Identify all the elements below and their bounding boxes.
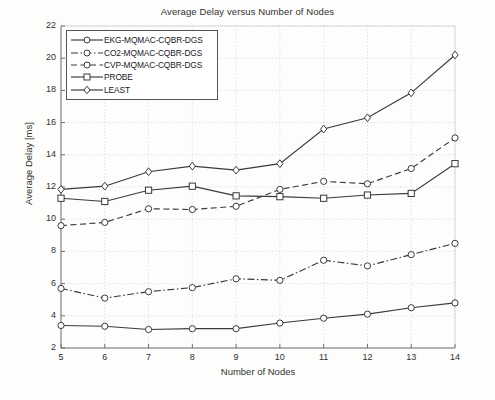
series-ekg-mqmac-cqbr-dgs <box>58 300 458 333</box>
legend-label-least: LEAST <box>104 85 130 95</box>
data-point-marker <box>102 182 108 190</box>
x-tick-label: 13 <box>399 352 423 362</box>
legend-label-co2: CO2-MQMAC-CQBR-DGS <box>104 48 202 58</box>
data-point-marker <box>321 195 327 201</box>
data-point-marker <box>408 165 414 171</box>
legend-item: LEAST <box>70 84 213 96</box>
data-point-marker <box>364 311 370 317</box>
legend-swatch-cvp <box>70 59 104 71</box>
legend-swatch-probe <box>70 71 104 83</box>
data-point-marker <box>277 160 283 168</box>
legend-swatch-ekg <box>70 34 104 46</box>
y-tick-label: 20 <box>30 52 56 62</box>
x-tick-label: 8 <box>180 352 204 362</box>
y-tick-label: 6 <box>30 278 56 288</box>
series-co2-mqmac-cqbr-dgs <box>58 240 458 301</box>
x-tick-label: 11 <box>312 352 336 362</box>
data-point-marker <box>145 168 151 176</box>
data-point-marker <box>189 162 195 170</box>
y-tick-label: 2 <box>30 342 56 352</box>
data-point-marker <box>277 320 283 326</box>
data-point-marker <box>233 166 239 174</box>
data-point-marker <box>452 300 458 306</box>
data-point-marker <box>321 315 327 321</box>
y-tick-label: 22 <box>30 20 56 30</box>
data-point-marker <box>84 74 90 80</box>
data-point-marker <box>84 86 90 94</box>
data-point-marker <box>277 194 283 200</box>
data-point-marker <box>233 203 239 209</box>
x-tick-label: 9 <box>224 352 248 362</box>
legend-item: CVP-MQMAC-CQBR-DGS <box>70 59 213 71</box>
data-point-marker <box>84 50 90 56</box>
data-point-marker <box>321 125 327 133</box>
x-tick-label: 7 <box>137 352 161 362</box>
data-point-marker <box>145 289 151 295</box>
chart-figure: Average Delay versus Number of Nodes Ave… <box>0 0 495 400</box>
legend-item: CO2-MQMAC-CQBR-DGS <box>70 46 213 58</box>
data-point-marker <box>452 51 458 59</box>
data-point-marker <box>189 285 195 291</box>
legend-swatch-least <box>70 84 104 96</box>
chart-legend: EKG-MQMAC-CQBR-DGS CO2-MQMAC-CQBR-DGS CV… <box>66 30 218 100</box>
data-point-marker <box>452 135 458 141</box>
series-line <box>61 243 455 298</box>
data-point-marker <box>452 240 458 246</box>
x-tick-label: 14 <box>443 352 467 362</box>
data-point-marker <box>277 277 283 283</box>
legend-item: EKG-MQMAC-CQBR-DGS <box>70 34 213 46</box>
data-point-marker <box>408 252 414 258</box>
series-line <box>61 164 455 202</box>
series-line <box>61 303 455 330</box>
y-tick-label: 10 <box>30 213 56 223</box>
legend-label-cvp: CVP-MQMAC-CQBR-DGS <box>104 60 202 70</box>
data-point-marker <box>84 62 90 68</box>
data-point-marker <box>145 187 151 193</box>
data-point-marker <box>145 206 151 212</box>
data-point-marker <box>189 206 195 212</box>
data-point-marker <box>102 198 108 204</box>
chart-title: Average Delay versus Number of Nodes <box>0 6 495 17</box>
series-line <box>61 138 455 226</box>
data-point-marker <box>364 114 370 122</box>
data-point-marker <box>189 183 195 189</box>
data-point-marker <box>102 323 108 329</box>
y-tick-label: 14 <box>30 149 56 159</box>
x-axis-label: Number of Nodes <box>61 366 455 377</box>
data-point-marker <box>364 181 370 187</box>
legend-swatch-co2 <box>70 47 104 59</box>
data-point-marker <box>233 326 239 332</box>
data-point-marker <box>277 186 283 192</box>
data-point-marker <box>102 295 108 301</box>
data-point-marker <box>364 263 370 269</box>
data-point-marker <box>408 190 414 196</box>
legend-label-probe: PROBE <box>104 72 133 82</box>
x-tick-label: 12 <box>355 352 379 362</box>
data-point-marker <box>452 161 458 167</box>
data-point-marker <box>321 257 327 263</box>
x-tick-label: 5 <box>49 352 73 362</box>
x-tick-label: 6 <box>93 352 117 362</box>
data-point-marker <box>233 276 239 282</box>
data-point-marker <box>364 192 370 198</box>
data-point-marker <box>189 326 195 332</box>
x-tick-label: 10 <box>268 352 292 362</box>
data-point-marker <box>408 305 414 311</box>
legend-item: PROBE <box>70 71 213 83</box>
data-point-marker <box>102 219 108 225</box>
y-tick-label: 16 <box>30 117 56 127</box>
legend-label-ekg: EKG-MQMAC-CQBR-DGS <box>104 35 203 45</box>
data-point-marker <box>84 37 90 43</box>
y-tick-label: 4 <box>30 310 56 320</box>
data-point-marker <box>321 178 327 184</box>
data-point-marker <box>233 193 239 199</box>
y-tick-label: 8 <box>30 245 56 255</box>
y-tick-label: 12 <box>30 181 56 191</box>
y-tick-label: 18 <box>30 84 56 94</box>
data-point-marker <box>145 326 151 332</box>
